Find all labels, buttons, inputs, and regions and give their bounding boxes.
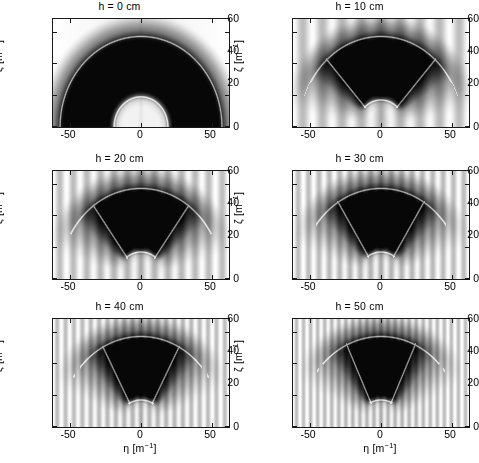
x-tick-mark bbox=[141, 123, 142, 127]
xtick-label: -50 bbox=[288, 129, 328, 140]
y-tick-mark bbox=[293, 278, 297, 279]
x-tick-mark bbox=[381, 171, 382, 175]
x-tick-mark bbox=[310, 275, 311, 279]
y-tick-mark bbox=[293, 95, 297, 96]
y-tick-mark bbox=[465, 95, 469, 96]
ytick-label: 40 bbox=[433, 197, 479, 207]
ytick-label: 60 bbox=[433, 165, 479, 175]
y-tick-mark bbox=[465, 32, 469, 33]
xtick-label: 0 bbox=[360, 281, 400, 292]
y-tick-mark bbox=[225, 95, 229, 96]
x-tick-mark bbox=[381, 275, 382, 279]
y-tick-mark bbox=[53, 247, 57, 248]
x-axis-label: η [m−1] bbox=[292, 442, 468, 454]
xtick-label: 50 bbox=[430, 429, 470, 440]
xtick-label: 0 bbox=[360, 129, 400, 140]
y-axis-label: ζ [m−1] bbox=[0, 40, 4, 72]
xtick-label: -50 bbox=[288, 281, 328, 292]
panel-title: h = 20 cm bbox=[0, 152, 239, 164]
y-tick-mark bbox=[53, 426, 57, 427]
xtick-label: 0 bbox=[120, 429, 160, 440]
x-tick-mark bbox=[310, 423, 311, 427]
y-tick-mark bbox=[293, 395, 297, 396]
y-tick-mark bbox=[225, 247, 229, 248]
ytick-label: 40 bbox=[433, 45, 479, 55]
x-tick-mark bbox=[381, 19, 382, 23]
y-tick-mark bbox=[465, 184, 469, 185]
y-tick-mark bbox=[53, 363, 57, 364]
plot-axes bbox=[52, 18, 230, 128]
y-tick-mark bbox=[465, 63, 469, 64]
y-tick-mark bbox=[225, 332, 229, 333]
x-tick-mark bbox=[381, 123, 382, 127]
panel-title: h = 0 cm bbox=[0, 0, 239, 12]
y-tick-mark bbox=[53, 63, 57, 64]
panel-title: h = 40 cm bbox=[0, 300, 239, 312]
y-tick-mark bbox=[225, 363, 229, 364]
x-tick-mark bbox=[141, 275, 142, 279]
xtick-label: 0 bbox=[360, 429, 400, 440]
panel-title: h = 30 cm bbox=[240, 152, 479, 164]
ytick-label: 20 bbox=[433, 377, 479, 387]
y-axis-label: ζ [m−1] bbox=[232, 340, 244, 372]
ytick-label: 60 bbox=[193, 313, 239, 323]
panel-h10: h = 10 cm 60 40 20 0 -50 0 50 ζ [m−1] bbox=[240, 0, 479, 154]
xtick-label: 0 bbox=[120, 281, 160, 292]
panel-h20: h = 20 cm 60 40 20 0 -50 0 50 ζ [m−1] bbox=[0, 152, 239, 306]
ytick-label: 20 bbox=[193, 77, 239, 87]
ytick-label: 20 bbox=[193, 229, 239, 239]
y-tick-mark bbox=[293, 426, 297, 427]
x-tick-mark bbox=[141, 423, 142, 427]
xtick-label: 50 bbox=[430, 281, 470, 292]
y-tick-mark bbox=[225, 184, 229, 185]
y-tick-mark bbox=[53, 215, 57, 216]
plot-axes bbox=[292, 170, 470, 280]
y-tick-mark bbox=[465, 363, 469, 364]
x-tick-mark bbox=[70, 319, 71, 323]
y-tick-mark bbox=[465, 215, 469, 216]
plot-axes bbox=[292, 318, 470, 428]
ytick-label: 20 bbox=[193, 377, 239, 387]
y-tick-mark bbox=[53, 184, 57, 185]
y-tick-mark bbox=[293, 332, 297, 333]
xtick-label: 50 bbox=[430, 129, 470, 140]
heatmap-canvas bbox=[53, 171, 229, 279]
y-tick-mark bbox=[225, 395, 229, 396]
xtick-label: 50 bbox=[190, 281, 230, 292]
heatmap-canvas bbox=[53, 319, 229, 427]
panel-h50: h = 50 cm 60 40 20 0 -50 0 50 ζ [m−1] η … bbox=[240, 300, 479, 463]
panel-title: h = 10 cm bbox=[240, 0, 479, 12]
panel-h0: h = 0 cm 60 40 20 0 -50 0 50 ζ [m−1] bbox=[0, 0, 239, 154]
y-tick-mark bbox=[293, 63, 297, 64]
panel-title: h = 50 cm bbox=[240, 300, 479, 312]
panel-h30: h = 30 cm 60 40 20 0 -50 0 50 ζ [m−1] bbox=[240, 152, 479, 306]
y-tick-mark bbox=[53, 278, 57, 279]
y-tick-mark bbox=[53, 395, 57, 396]
ytick-label: 60 bbox=[193, 13, 239, 23]
y-tick-mark bbox=[53, 126, 57, 127]
y-axis-label: ζ [m−1] bbox=[0, 340, 4, 372]
y-tick-mark bbox=[225, 32, 229, 33]
ytick-label: 60 bbox=[193, 165, 239, 175]
xtick-label: 50 bbox=[190, 429, 230, 440]
y-tick-mark bbox=[293, 184, 297, 185]
x-tick-mark bbox=[141, 319, 142, 323]
ytick-label: 40 bbox=[433, 345, 479, 355]
x-tick-mark bbox=[381, 423, 382, 427]
xtick-label: -50 bbox=[48, 129, 88, 140]
y-tick-mark bbox=[53, 95, 57, 96]
x-tick-mark bbox=[141, 171, 142, 175]
x-tick-mark bbox=[70, 171, 71, 175]
y-tick-mark bbox=[293, 247, 297, 248]
ytick-label: 60 bbox=[433, 13, 479, 23]
xtick-label: 0 bbox=[120, 129, 160, 140]
heatmap-canvas bbox=[293, 171, 469, 279]
x-tick-mark bbox=[310, 319, 311, 323]
panel-h40: h = 40 cm 60 40 20 0 -50 0 50 ζ [m−1] η … bbox=[0, 300, 239, 463]
y-tick-mark bbox=[225, 63, 229, 64]
x-tick-mark bbox=[70, 423, 71, 427]
x-tick-mark bbox=[310, 19, 311, 23]
x-tick-mark bbox=[70, 123, 71, 127]
heatmap-canvas bbox=[53, 19, 229, 127]
figure-root: h = 0 cm 60 40 20 0 -50 0 50 ζ [m−1] h =… bbox=[0, 0, 479, 463]
